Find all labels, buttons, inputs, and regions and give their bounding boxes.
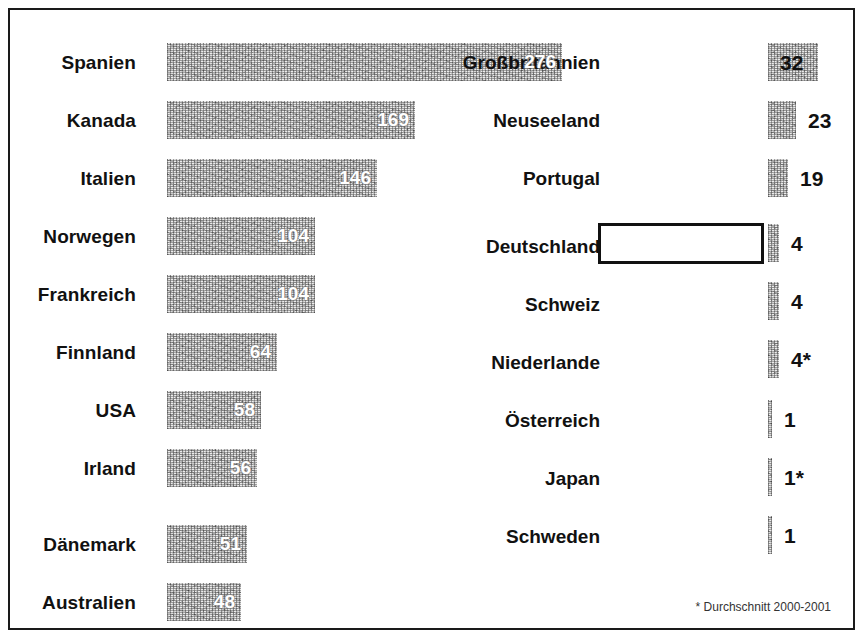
bar-value-finnland: 64 xyxy=(250,341,271,363)
bar-neuseeland xyxy=(768,101,796,139)
bar-label-gro-britannien: Großbritannien xyxy=(340,52,600,74)
bar--sterreich xyxy=(768,400,772,438)
bar-portugal xyxy=(768,159,788,197)
bar-usa: 58 xyxy=(167,391,261,429)
bar-value-frankreich: 104 xyxy=(277,283,309,305)
bar-value-japan: 1* xyxy=(784,466,804,490)
bar-value-norwegen: 104 xyxy=(277,225,309,247)
bar-label-niederlande: Niederlande xyxy=(340,352,600,374)
bar-label-irland: Irland xyxy=(0,458,136,480)
chart-footnote: * Durchschnitt 2000-2001 xyxy=(696,600,831,614)
bar-italien: 146 xyxy=(167,159,377,197)
bar-label-kanada: Kanada xyxy=(0,110,136,132)
bar-japan xyxy=(768,458,772,496)
bar-label-australien: Australien xyxy=(0,592,136,614)
bar-label-usa: USA xyxy=(0,400,136,422)
bar-value-deutschland: 4 xyxy=(791,232,803,256)
bar-value-niederlande: 4* xyxy=(791,348,811,372)
bar-label-norwegen: Norwegen xyxy=(0,226,136,248)
bar-label-japan: Japan xyxy=(340,468,600,490)
bar-schweden xyxy=(768,516,772,554)
bar-value-schweden: 1 xyxy=(784,524,796,548)
bar-label-portugal: Portugal xyxy=(340,168,600,190)
bar-finnland: 64 xyxy=(167,333,277,371)
bar-frankreich: 104 xyxy=(167,275,315,313)
bar-value-italien: 146 xyxy=(339,167,371,189)
bar-irland: 56 xyxy=(167,449,257,487)
bar-niederlande xyxy=(768,340,779,378)
bar-kanada: 169 xyxy=(167,101,415,139)
bar-norwegen: 104 xyxy=(167,217,315,255)
highlight-box-deutschland xyxy=(598,223,764,264)
bar-label-schweiz: Schweiz xyxy=(340,294,600,316)
bar-value-gro-britannien: 32 xyxy=(780,51,803,75)
bar-value-australien: 48 xyxy=(214,591,235,613)
bar-label-dänemark: Dänemark xyxy=(0,534,136,556)
bar-value-usa: 58 xyxy=(234,399,255,421)
bar-dänemark: 51 xyxy=(167,525,247,563)
bar-value-portugal: 19 xyxy=(800,167,823,191)
bar-schweiz xyxy=(768,282,779,320)
bar-label-spanien: Spanien xyxy=(0,52,136,74)
bar-value-neuseeland: 23 xyxy=(808,109,831,133)
bar-value-schweiz: 4 xyxy=(791,290,803,314)
bar-deutschland xyxy=(768,224,779,262)
bar-label-schweden: Schweden xyxy=(340,526,600,548)
bar-label-frankreich: Frankreich xyxy=(0,284,136,306)
bar-label-italien: Italien xyxy=(0,168,136,190)
chart-frame: Spanien276Kanada169Italien146Norwegen104… xyxy=(8,8,855,630)
bar-value-irland: 56 xyxy=(230,457,251,479)
bar-australien: 48 xyxy=(167,583,241,621)
chart-page: Spanien276Kanada169Italien146Norwegen104… xyxy=(0,0,867,643)
bar-label-deutschland: Deutschland xyxy=(340,236,600,258)
bar-value-spanien: 276 xyxy=(524,51,556,73)
bar-label-finnland: Finnland xyxy=(0,342,136,364)
bar-value-kanada: 169 xyxy=(377,109,409,131)
bar-label--sterreich: Österreich xyxy=(340,410,600,432)
bar-value-dänemark: 51 xyxy=(220,533,241,555)
bar-value--sterreich: 1 xyxy=(784,408,796,432)
